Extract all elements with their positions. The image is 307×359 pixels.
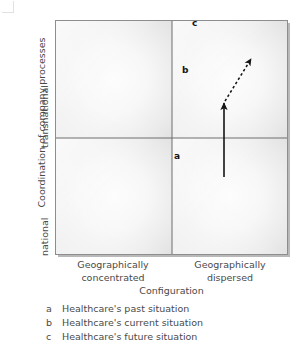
legend-item-c: c Healthcare's future situation: [46, 331, 286, 345]
point-label-c: c: [192, 19, 197, 28]
quadrant-chart-figure: a b c Coordination of company processes …: [0, 0, 307, 359]
legend-text-a: Healthcare's past situation: [62, 303, 189, 314]
legend-key-c: c: [46, 331, 62, 342]
scan-artifact: [2, 1, 14, 13]
legend-item-b: b Healthcare's current situation: [46, 317, 286, 331]
x-axis-tier-dispersed: Geographically dispersed: [172, 259, 288, 284]
legend-text-b: Healthcare's current situation: [62, 317, 203, 328]
arrow-b-to-c: [225, 59, 251, 101]
legend-key-b: b: [46, 317, 62, 328]
point-label-b: b: [182, 66, 188, 75]
legend-key-a: a: [46, 303, 62, 314]
x-axis-tier-concentrated-line1: Geographically: [55, 259, 171, 272]
legend-text-c: Healthcare's future situation: [62, 331, 197, 342]
y-axis-tier-transnational: transnational: [39, 85, 50, 148]
point-label-a: a: [174, 152, 180, 161]
x-axis-tier-dispersed-line2: dispersed: [172, 272, 288, 285]
legend-item-a: a Healthcare's past situation: [46, 303, 286, 317]
x-axis-tier-dispersed-line1: Geographically: [172, 259, 288, 272]
y-axis-tier-national: national: [39, 217, 50, 256]
x-axis-tier-concentrated-line2: concentrated: [55, 272, 171, 285]
x-axis-title: Configuration: [55, 285, 288, 296]
arrow-overlay: [55, 20, 288, 255]
legend: a Healthcare's past situation b Healthca…: [46, 303, 286, 345]
x-axis-tier-concentrated: Geographically concentrated: [55, 259, 171, 284]
